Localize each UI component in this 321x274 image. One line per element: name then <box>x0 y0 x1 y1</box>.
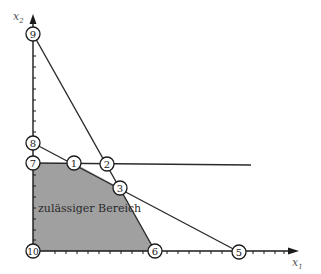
svg-text:5: 5 <box>236 247 242 258</box>
node-7: 7 <box>26 156 40 170</box>
node-2: 2 <box>100 157 114 171</box>
svg-text:2: 2 <box>104 159 110 170</box>
node-5: 5 <box>232 245 246 259</box>
node-9: 9 <box>26 27 40 41</box>
svg-text:1: 1 <box>71 158 77 169</box>
node-1: 1 <box>67 156 81 170</box>
x2-axis-arrow-icon <box>30 14 37 24</box>
x1-axis-label: x1 <box>292 256 303 271</box>
x1-axis-arrow-icon <box>288 248 299 255</box>
region-label: zulässiger Bereich <box>38 202 141 215</box>
node-10: 10 <box>26 244 40 258</box>
svg-text:10: 10 <box>27 247 39 257</box>
node-6: 6 <box>148 244 162 258</box>
lp-feasible-region-diagram: x2 x1 zulässiger Bereich 9 8 7 1 2 3 10 … <box>0 0 321 274</box>
svg-text:3: 3 <box>117 183 123 194</box>
svg-text:8: 8 <box>30 138 36 149</box>
node-3: 3 <box>113 181 127 195</box>
svg-text:6: 6 <box>152 246 158 257</box>
node-8: 8 <box>26 136 40 150</box>
x2-axis-label: x2 <box>13 10 24 25</box>
svg-text:9: 9 <box>30 29 36 40</box>
svg-text:7: 7 <box>30 158 36 169</box>
